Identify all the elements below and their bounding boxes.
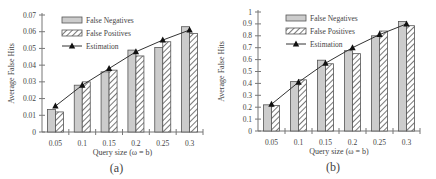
x-tick-label: 0.05 (49, 139, 62, 148)
legend: False NegativesFalse PositivesEstimation (62, 16, 134, 51)
bar-false-positives (299, 80, 307, 131)
y-tick-label: 0.07 (23, 11, 36, 20)
y-tick-label: 0.03 (23, 77, 36, 86)
legend-label-false-positives: False Positives (310, 27, 355, 36)
legend-swatch-false-negatives (286, 15, 306, 21)
x-tick-label: 0.1 (78, 139, 88, 148)
x-tick-label: 0.2 (348, 138, 358, 147)
chart-panel-a: 00.010.020.030.040.050.060.07Average Fal… (0, 0, 218, 179)
y-tick-label: 0.4 (243, 79, 253, 88)
legend-label-false-negatives: False Negatives (310, 14, 358, 23)
panel-label: (a) (110, 161, 123, 175)
y-tick-label: 0 (248, 127, 252, 136)
y-axis-label: Average False Hits (217, 41, 226, 102)
y-tick-label: 0.05 (23, 44, 36, 53)
bar-false-negatives (101, 72, 109, 132)
bar-false-positives (326, 64, 334, 131)
legend-label-false-negatives: False Negatives (86, 16, 134, 25)
x-tick-label: 0.25 (373, 138, 386, 147)
triangle-marker-icon (52, 103, 58, 109)
y-tick-label: 0.8 (243, 31, 253, 40)
bar-false-negatives (345, 51, 353, 131)
bar-false-positives (136, 56, 144, 132)
bar-false-positives (190, 33, 198, 132)
x-tick-label: 0.3 (185, 139, 195, 148)
triangle-marker-icon (268, 101, 274, 107)
y-tick-label: 0 (32, 128, 36, 137)
legend-swatch-false-positives (286, 28, 306, 34)
y-tick-label: 0.04 (23, 61, 36, 70)
legend: False NegativesFalse PositivesEstimation (286, 14, 358, 49)
y-tick-label: 0.06 (23, 27, 36, 36)
bar-false-negatives (264, 105, 272, 131)
x-tick-label: 0.3 (402, 138, 412, 147)
y-tick-label: 0.2 (243, 103, 253, 112)
x-tick-label: 0.1 (294, 138, 304, 147)
panel-label: (b) (326, 160, 340, 174)
y-tick-label: 0.3 (243, 91, 253, 100)
y-axis-label: Average False Hits (7, 43, 16, 104)
x-tick-label: 0.25 (156, 139, 169, 148)
bar-false-positives (380, 31, 388, 131)
y-tick-label: 0.9 (243, 19, 253, 28)
y-tick-label: 0.5 (243, 67, 253, 76)
y-tick-label: 0.7 (243, 43, 253, 52)
legend-label-estimation: Estimation (86, 42, 119, 51)
legend-label-estimation: Estimation (310, 40, 343, 49)
legend-swatch-false-positives (62, 30, 82, 36)
triangle-marker-icon (106, 65, 112, 71)
y-tick-label: 0.01 (23, 111, 36, 120)
chart-b: 00.10.20.30.40.50.60.70.80.91Average Fal… (214, 0, 436, 179)
x-tick-label: 0.15 (319, 138, 332, 147)
bar-false-negatives (128, 50, 136, 132)
bar-false-negatives (182, 27, 190, 132)
y-tick-label: 1 (248, 8, 252, 17)
y-tick-label: 0.1 (243, 115, 253, 124)
bar-false-positives (55, 112, 63, 132)
bar-false-positives (272, 105, 280, 131)
x-axis-label: Query size (ω = b) (309, 147, 369, 156)
bar-false-negatives (155, 48, 163, 132)
y-tick-label: 0.6 (243, 55, 253, 64)
y-tick-label: 0.02 (23, 94, 36, 103)
x-tick-label: 0.2 (131, 139, 141, 148)
bar-false-positives (407, 26, 415, 131)
bar-false-negatives (372, 36, 380, 131)
legend-swatch-false-negatives (62, 17, 82, 23)
triangle-marker-icon (349, 44, 355, 50)
x-tick-label: 0.05 (265, 138, 278, 147)
bar-false-negatives (74, 85, 82, 132)
bar-false-negatives (399, 22, 407, 131)
bar-false-positives (163, 42, 171, 132)
bar-false-positives (82, 82, 90, 132)
bar-false-positives (109, 70, 117, 132)
legend-label-false-positives: False Positives (86, 29, 131, 38)
x-axis-label: Query size (ω = b) (93, 148, 153, 157)
bar-false-negatives (291, 82, 299, 131)
bar-false-negatives (318, 60, 326, 131)
chart-a: 00.010.020.030.040.050.060.07Average Fal… (0, 0, 218, 179)
chart-panel-b: 00.10.20.30.40.50.60.70.80.91Average Fal… (214, 0, 436, 179)
x-tick-label: 0.15 (103, 139, 116, 148)
bar-false-negatives (47, 109, 55, 132)
bar-false-positives (353, 54, 361, 131)
